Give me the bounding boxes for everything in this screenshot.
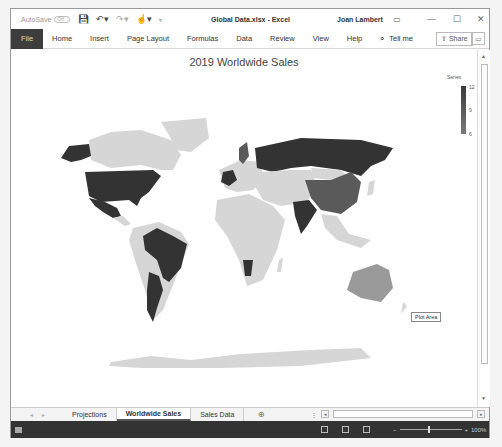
sheet-tab-worldwide-sales[interactable]: Worldwide Sales	[117, 408, 192, 421]
zoom-level[interactable]: 100%	[471, 427, 486, 433]
scroll-separator[interactable]: ⋮	[311, 411, 317, 418]
tab-file[interactable]: File	[11, 29, 43, 49]
region-madagascar	[277, 258, 283, 272]
zoom-track[interactable]	[400, 429, 462, 430]
title-bar: AutoSave Off 💾︎ ↶▾ ↷▾ ☝▾ ▿ Global Data.x…	[11, 9, 489, 29]
user-name[interactable]: Joan Lambert	[337, 16, 383, 23]
legend-min: 6	[469, 131, 472, 137]
region-antarctica	[109, 348, 371, 368]
save-icon[interactable]: 💾︎	[78, 14, 89, 24]
quick-access-toolbar: 💾︎ ↶▾ ↷▾ ☝▾ ▿	[78, 14, 162, 24]
sheet-tab-sales-data[interactable]: Sales Data	[191, 408, 244, 421]
zoom-out-icon[interactable]: −	[393, 427, 397, 433]
share-icon: ⇪	[441, 35, 449, 42]
tab-help[interactable]: Help	[338, 29, 371, 49]
region-canada	[89, 130, 181, 170]
region-southeast-asia	[321, 214, 371, 248]
zoom-slider[interactable]: − + 100%	[393, 427, 486, 433]
tell-me-search[interactable]: ⌕ Tell me	[371, 29, 422, 49]
comment-icon[interactable]: ▭	[471, 32, 485, 45]
scroll-right-icon[interactable]: ▸	[477, 410, 485, 418]
region-australia	[347, 264, 393, 302]
plot-area-tooltip: Plot Area	[411, 312, 441, 322]
ribbon-display-options-icon[interactable]: ▭	[393, 15, 401, 24]
touch-mode-icon[interactable]: ☝▾	[136, 14, 152, 24]
tab-formulas[interactable]: Formulas	[178, 29, 227, 49]
horizontal-scroll-track[interactable]	[333, 410, 473, 418]
region-japan	[367, 180, 375, 196]
search-icon: ⌕	[380, 34, 384, 44]
accessibility-icon[interactable]	[15, 427, 22, 433]
vertical-scrollbar[interactable]: ▲ ▼	[477, 50, 490, 407]
scrollbar-thumb[interactable]	[481, 64, 488, 364]
tab-view[interactable]: View	[304, 29, 338, 49]
autosave-toggle[interactable]: AutoSave Off	[21, 16, 70, 23]
maximize-button[interactable]: ☐	[453, 14, 461, 24]
legend-color-scale	[461, 86, 466, 134]
prev-sheet-icon[interactable]: ◂	[30, 411, 33, 418]
tab-review[interactable]: Review	[261, 29, 304, 49]
normal-view-icon[interactable]	[321, 426, 328, 433]
region-central-america	[113, 216, 131, 226]
page-layout-view-icon[interactable]	[342, 426, 349, 433]
chart-legend[interactable]: Series 12 9 6	[447, 74, 461, 80]
sheet-tab-projections[interactable]: Projections	[63, 408, 117, 421]
tab-insert[interactable]: Insert	[81, 29, 118, 49]
window-title: Global Data.xlsx - Excel	[211, 16, 290, 23]
region-alaska	[61, 144, 91, 162]
share-label: Share	[449, 35, 468, 42]
tab-home[interactable]: Home	[43, 29, 81, 49]
horizontal-scrollbar[interactable]: ⋮ ◂ ▸	[311, 410, 485, 418]
next-sheet-icon[interactable]: ▸	[42, 411, 45, 418]
tell-me-label: Tell me	[389, 34, 413, 43]
legend-max: 12	[469, 84, 475, 90]
scroll-up-icon[interactable]: ▲	[481, 53, 486, 59]
customize-qat-icon[interactable]: ▿	[159, 16, 162, 23]
share-button[interactable]: ⇪ Share	[436, 32, 473, 46]
autosave-label: AutoSave	[21, 16, 51, 23]
sheet-navigation: ◂ ▸	[11, 408, 63, 421]
scroll-down-icon[interactable]: ▼	[481, 395, 486, 401]
autosave-switch[interactable]: Off	[54, 16, 70, 23]
scroll-left-icon[interactable]: ◂	[321, 410, 329, 418]
chart-title[interactable]: 2019 Worldwide Sales	[11, 56, 477, 68]
tab-page-layout[interactable]: Page Layout	[118, 29, 178, 49]
close-button[interactable]: ✕	[477, 14, 485, 24]
legend-mid: 9	[469, 107, 472, 113]
status-bar: − + 100%	[11, 421, 489, 438]
page-break-view-icon[interactable]	[363, 426, 370, 433]
tab-data[interactable]: Data	[227, 29, 261, 49]
world-map-plot-area[interactable]	[41, 110, 441, 380]
chart-sheet[interactable]: 2019 Worldwide Sales Series 12 9 6	[11, 50, 477, 407]
zoom-in-icon[interactable]: +	[465, 427, 469, 433]
minimize-button[interactable]: —	[427, 14, 436, 24]
view-buttons	[321, 426, 370, 433]
legend-title: Series	[447, 74, 461, 80]
add-sheet-icon[interactable]: ⊕	[258, 408, 265, 421]
zoom-knob[interactable]	[428, 426, 430, 433]
region-india	[293, 200, 317, 234]
sheet-tabs-bar: ◂ ▸ Projections Worldwide Sales Sales Da…	[11, 407, 489, 421]
undo-icon[interactable]: ↶▾	[96, 14, 109, 24]
region-new-zealand	[401, 302, 407, 314]
excel-window: AutoSave Off 💾︎ ↶▾ ↷▾ ☝▾ ▿ Global Data.x…	[10, 8, 490, 438]
ribbon-tabs: File Home Insert Page Layout Formulas Da…	[11, 29, 489, 49]
redo-icon[interactable]: ↷▾	[116, 14, 129, 24]
